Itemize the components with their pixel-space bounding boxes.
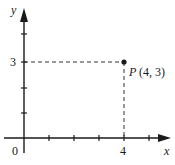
x-axis-label: x <box>163 144 170 158</box>
point-p-coords: (4, 3) <box>139 65 165 79</box>
y-axis-label: y <box>10 3 17 17</box>
point-p-marker <box>121 59 126 64</box>
y-tick-label-3: 3 <box>10 55 16 69</box>
y-axis-arrow-icon <box>20 8 28 22</box>
point-p-name: P <box>128 65 137 79</box>
coordinate-plane: y 3 0 4 x P (4, 3) <box>0 0 175 165</box>
x-tick-label-4: 4 <box>120 144 126 158</box>
x-axis-arrow-icon <box>158 134 171 142</box>
origin-label: 0 <box>12 144 18 158</box>
